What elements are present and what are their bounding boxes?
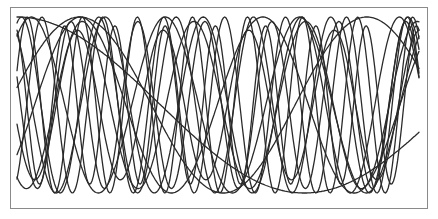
sine-curves-plot <box>11 8 429 210</box>
plot-frame <box>10 7 428 209</box>
